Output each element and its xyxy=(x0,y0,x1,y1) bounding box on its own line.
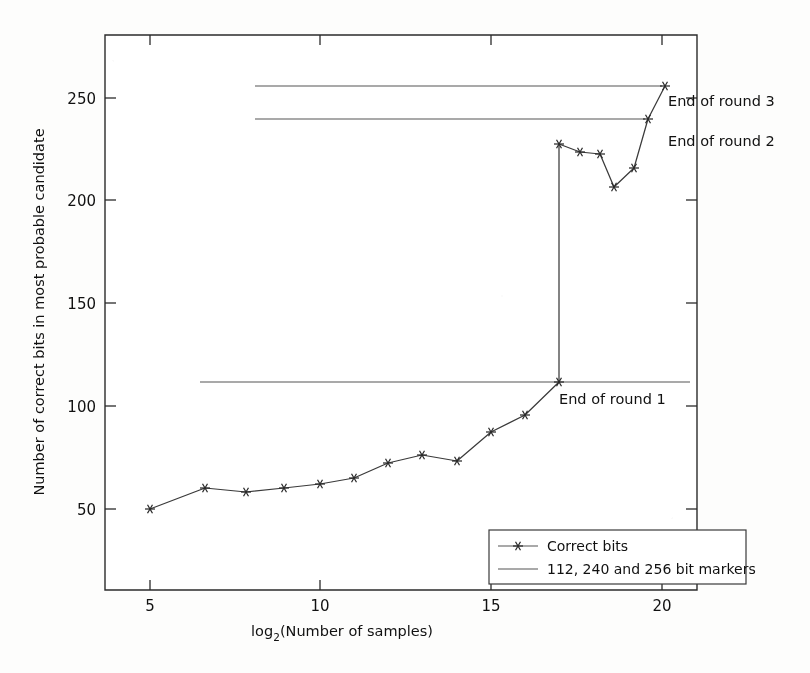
y-axis-tick-labels: 250 200 150 100 50 xyxy=(67,90,96,519)
chart-legend[interactable]: Correct bits 112, 240 and 256 bit marker… xyxy=(489,530,756,584)
x-axis-title: log2(Number of samples) xyxy=(251,623,433,643)
y-tick-label-250: 250 xyxy=(67,90,96,108)
plot-area-background xyxy=(105,35,697,590)
x-axis-tick-labels: 5 10 15 20 xyxy=(145,597,671,615)
chart-figure: 250 200 150 100 50 5 10 15 20 log2(Num xyxy=(0,0,810,673)
y-tick-label-50: 50 xyxy=(77,501,96,519)
x-tick-label-5: 5 xyxy=(145,597,155,615)
legend-label-bit-markers: 112, 240 and 256 bit markers xyxy=(547,561,756,577)
legend-label-correct-bits: Correct bits xyxy=(547,538,628,554)
annotation-end-of-round-2: End of round 2 xyxy=(668,133,775,149)
x-tick-label-20: 20 xyxy=(652,597,671,615)
x-tick-label-15: 15 xyxy=(481,597,500,615)
x-tick-label-10: 10 xyxy=(310,597,329,615)
chart-svg: 250 200 150 100 50 5 10 15 20 log2(Num xyxy=(0,0,810,673)
y-tick-label-200: 200 xyxy=(67,192,96,210)
y-tick-label-100: 100 xyxy=(67,398,96,416)
x-axis-title-subscript: 2 xyxy=(273,631,280,643)
y-tick-label-150: 150 xyxy=(67,295,96,313)
x-axis-title-rest: (Number of samples) xyxy=(280,623,433,639)
annotation-end-of-round-1: End of round 1 xyxy=(559,391,666,407)
annotation-end-of-round-3: End of round 3 xyxy=(668,93,775,109)
y-axis-title: Number of correct bits in most probable … xyxy=(31,128,47,495)
x-axis-title-base: log xyxy=(251,623,273,639)
svg-text:log2(Number of samples): log2(Number of samples) xyxy=(251,623,433,643)
